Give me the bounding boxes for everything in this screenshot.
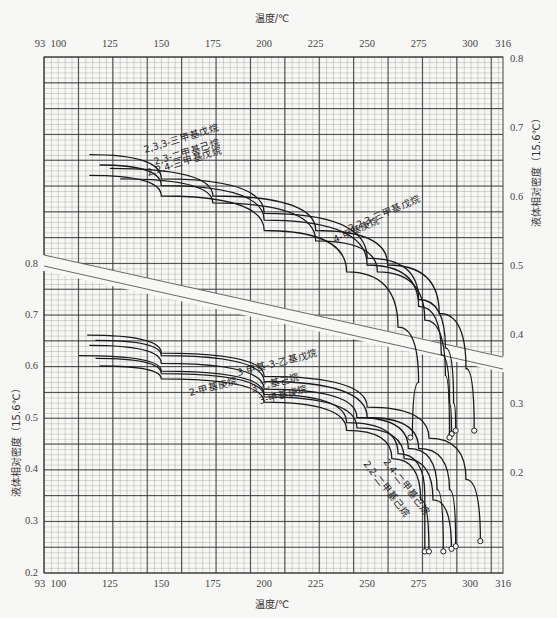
left-tick-0.2: 0.2	[25, 567, 38, 578]
left-axis-ticks: 0.80.70.60.50.40.30.2	[25, 258, 39, 578]
bottom-tick-250: 250	[359, 578, 375, 589]
right-tick-0.8: 0.8	[510, 53, 523, 64]
top-tick-125: 125	[102, 38, 118, 49]
left-tick-0.8: 0.8	[25, 258, 38, 269]
bottom-tick-150: 150	[153, 578, 169, 589]
bottom-tick-275: 275	[411, 578, 427, 589]
bottom-tick-175: 175	[205, 578, 221, 589]
critical-point-marker	[426, 549, 431, 554]
left-tick-0.5: 0.5	[25, 412, 38, 423]
bottom-tick-225: 225	[308, 578, 324, 589]
right-tick-0.3: 0.3	[510, 398, 523, 409]
bottom-tick-125: 125	[102, 578, 118, 589]
left-axis-title: 液体相对密度（15.6℃）	[10, 383, 22, 497]
top-axis-ticks: 93100125150175200225250275300316	[35, 38, 511, 49]
bottom-tick-100: 100	[51, 578, 67, 589]
right-tick-0.5: 0.5	[510, 260, 523, 271]
top-tick-150: 150	[153, 38, 169, 49]
top-tick-300: 300	[462, 38, 478, 49]
top-tick-175: 175	[205, 38, 221, 49]
critical-point-marker	[478, 539, 483, 544]
left-tick-0.6: 0.6	[25, 360, 38, 371]
right-tick-0.7: 0.7	[510, 122, 523, 133]
critical-point-marker	[441, 549, 446, 554]
top-axis-title: 温度/℃	[255, 12, 290, 24]
bottom-tick-200: 200	[256, 578, 272, 589]
bottom-tick-316: 316	[495, 578, 511, 589]
right-axis-ticks: 0.80.70.60.50.40.30.2	[510, 53, 524, 478]
critical-point-marker	[408, 435, 413, 440]
bottom-axis-ticks: 93100125150175200225250275300316	[35, 578, 511, 589]
bottom-axis-title: 温度/℃	[255, 598, 290, 610]
top-tick-250: 250	[359, 38, 375, 49]
right-tick-0.2: 0.2	[510, 467, 523, 478]
top-tick-275: 275	[411, 38, 427, 49]
top-tick-225: 225	[308, 38, 324, 49]
bottom-tick-93: 93	[35, 578, 46, 589]
critical-point-marker	[449, 546, 454, 551]
left-tick-0.3: 0.3	[25, 515, 38, 526]
critical-point-marker	[472, 428, 477, 433]
left-tick-0.7: 0.7	[25, 309, 38, 320]
right-tick-0.4: 0.4	[510, 329, 524, 340]
top-tick-100: 100	[51, 38, 67, 49]
bottom-tick-300: 300	[462, 578, 478, 589]
top-tick-93: 93	[35, 38, 46, 49]
critical-point-marker	[447, 435, 452, 440]
top-tick-200: 200	[256, 38, 272, 49]
right-axis-title: 液体相对密度（15.6℃）	[530, 113, 542, 227]
left-tick-0.4: 0.4	[25, 463, 39, 474]
top-tick-316: 316	[495, 38, 511, 49]
density-temperature-chart: 93100125150175200225250275300316 9310012…	[0, 0, 557, 618]
right-tick-0.6: 0.6	[510, 191, 523, 202]
